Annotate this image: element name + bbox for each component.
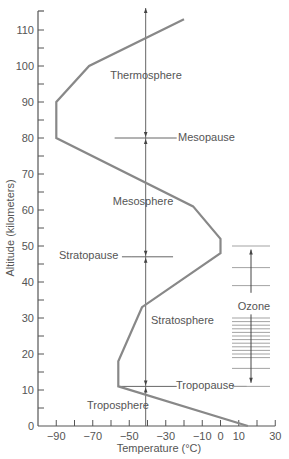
y-tick-label: 90 [22,96,34,108]
x-tick-label: −30 [156,430,175,442]
atmosphere-temperature-chart: 0102030405060708090100110−90−70−50−30−10… [0,0,289,459]
y-tick-label: 60 [22,204,34,216]
y-tick-label: 50 [22,240,34,252]
label-thermosphere: Thermosphere [110,69,182,81]
x-tick-label: −70 [83,430,102,442]
label-stratopause: Stratopause [59,249,118,261]
x-tick-label: 0 [217,430,223,442]
ozone-band [232,246,270,386]
y-tick-label: 70 [22,168,34,180]
y-tick-label: 110 [16,24,34,36]
label-stratosphere: Stratosphere [151,314,214,326]
x-tick-label: −50 [120,430,139,442]
y-tick-label: 40 [22,276,34,288]
x-tick-label: 10 [233,430,245,442]
y-tick-label: 10 [22,384,34,396]
label-mesopause: Mesopause [178,131,235,143]
y-tick-label: 100 [16,60,34,72]
y-tick-label: 80 [22,132,34,144]
x-tick-label: 30 [269,430,281,442]
y-axis-label: Altitude (kilometers) [4,179,16,276]
label-mesosphere: Mesosphere [113,195,174,207]
label-tropopause: Tropopause [176,379,234,391]
x-tick-label: −10 [193,430,212,442]
layer-labels: Thermosphere Mesopause Mesosphere Strato… [4,69,270,454]
label-ozone: Ozone [238,300,270,312]
y-tick-label: 0 [28,420,34,432]
x-tick-label: −90 [47,430,66,442]
y-tick-label: 20 [22,348,34,360]
label-troposphere: Troposphere [87,399,149,411]
y-tick-label: 30 [22,312,34,324]
x-axis-label: Temperature (°C) [117,442,201,454]
